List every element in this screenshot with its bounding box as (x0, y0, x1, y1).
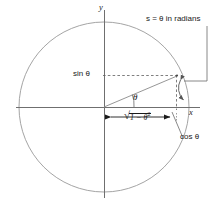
sine-label: sin θ (73, 70, 90, 78)
sqrt-expression-label: √1 − θ2 (124, 110, 151, 121)
arc-label-leader (184, 26, 207, 81)
angle-label: θ (133, 93, 137, 102)
radius-line (104, 76, 177, 107)
arc-length-arrow (179, 80, 184, 100)
radicand-exponent: 2 (147, 111, 150, 117)
y-axis-label: y (99, 3, 103, 12)
figure-canvas (0, 0, 218, 204)
terminal-point (176, 74, 178, 76)
arc-length-label: s = θ in radians (146, 15, 200, 23)
cosine-label: cos θ (180, 133, 199, 141)
x-axis-label: x (189, 108, 193, 117)
sqrt-expression: √1 − θ2 (124, 110, 151, 121)
radicand-base: 1 − θ (130, 113, 147, 122)
trigonometry-figure: y x s = θ in radians sin θ cos θ θ √1 − … (0, 0, 218, 204)
radicand: 1 − θ2 (129, 113, 151, 122)
